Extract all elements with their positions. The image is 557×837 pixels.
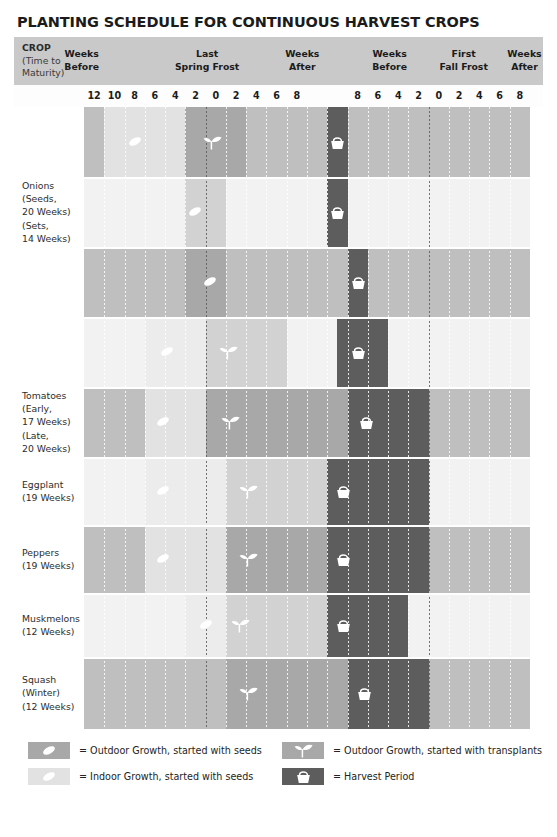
crop-row[interactable]: Squash(Winter)(12 Weeks)	[14, 657, 543, 729]
column-separator	[104, 593, 105, 657]
column-separator	[368, 177, 369, 247]
column-separator	[489, 317, 490, 387]
basket-icon	[356, 686, 373, 701]
crop-row[interactable]: Tomatoes(Early,17 Weeks)(Late,20 Weeks)	[14, 387, 543, 457]
column-separator	[185, 387, 186, 457]
column-separator	[125, 387, 126, 457]
column-separator	[287, 107, 288, 177]
column-separator	[307, 593, 308, 657]
column-separator	[104, 247, 105, 317]
frost-line	[429, 387, 430, 457]
column-separator	[408, 457, 409, 525]
column-separator	[104, 525, 105, 593]
column-separator	[165, 657, 166, 729]
column-separator	[327, 107, 328, 177]
crop-label-line: (19 Weeks)	[22, 491, 74, 504]
column-separator	[348, 107, 349, 177]
column-separator	[125, 317, 126, 387]
column-separator	[104, 457, 105, 525]
column-separator	[510, 387, 511, 457]
row-band-area	[14, 317, 543, 387]
column-separator	[287, 247, 288, 317]
axis-tick-0: 12	[86, 90, 102, 101]
column-separator	[489, 177, 490, 247]
sprout-icon	[218, 415, 242, 430]
row-band-area	[14, 525, 543, 593]
frost-line	[429, 177, 430, 247]
crop-row[interactable]	[14, 247, 543, 317]
column-separator	[287, 457, 288, 525]
legend-item: = Outdoor Growth, started with transplan…	[282, 742, 542, 759]
column-separator	[125, 247, 126, 317]
column-separator	[388, 247, 389, 317]
column-separator	[185, 177, 186, 247]
crop-label-line: 20 Weeks)	[22, 205, 71, 218]
crop-row[interactable]	[14, 317, 543, 387]
header-group-5: WeeksAfter	[472, 48, 557, 73]
column-separator	[125, 657, 126, 729]
column-separator	[510, 525, 511, 593]
column-separator	[125, 107, 126, 177]
sprout-icon	[200, 135, 224, 150]
column-separator	[469, 247, 470, 317]
crop-label-line: Tomatoes	[22, 389, 71, 402]
crop-label: Onions(Seeds,20 Weeks)(Sets,14 Weeks)	[22, 179, 71, 245]
header-group-line1: Weeks	[472, 48, 557, 61]
column-separator	[408, 657, 409, 729]
legend-label: = Harvest Period	[333, 771, 414, 782]
column-separator	[510, 593, 511, 657]
axis-tick-20: 6	[492, 90, 508, 101]
frost-line	[206, 177, 207, 247]
basket-icon	[329, 205, 346, 220]
frost-line	[429, 457, 430, 525]
crop-label-line: (Seeds,	[22, 192, 71, 205]
seed-icon	[187, 205, 203, 218]
column-separator	[165, 247, 166, 317]
planting-schedule-page: PLANTING SCHEDULE FOR CONTINUOUS HARVEST…	[0, 0, 557, 837]
frost-line	[429, 247, 430, 317]
band-indoor-seeds[interactable]	[145, 317, 206, 387]
basket-icon	[335, 484, 352, 499]
row-divider	[14, 387, 543, 389]
legend-item: = Harvest Period	[282, 768, 414, 785]
legend-swatch	[28, 768, 70, 785]
crop-row[interactable]: Peppers(19 Weeks)	[14, 525, 543, 593]
column-separator	[307, 387, 308, 457]
header-group-0: WeeksBefore	[30, 48, 134, 73]
frost-line	[206, 387, 207, 457]
column-separator	[388, 593, 389, 657]
column-separator	[165, 107, 166, 177]
column-separator	[408, 387, 409, 457]
column-separator	[510, 107, 511, 177]
column-separator	[408, 525, 409, 593]
axis-tick-6: 0	[208, 90, 224, 101]
seed-icon	[127, 135, 143, 148]
column-separator	[266, 593, 267, 657]
column-separator	[449, 317, 450, 387]
crop-row[interactable]: Muskmelons(12 Weeks)	[14, 593, 543, 657]
crop-label-line: 17 Weeks)	[22, 415, 71, 428]
sprout-icon	[236, 484, 260, 499]
column-separator	[408, 593, 409, 657]
row-divider	[14, 247, 543, 249]
column-separator	[185, 247, 186, 317]
axis-tick-8: 4	[248, 90, 264, 101]
band-indoor-seeds[interactable]	[145, 387, 206, 457]
column-separator	[408, 107, 409, 177]
frost-line	[206, 525, 207, 593]
header-group-line1: Last	[155, 48, 259, 61]
column-separator	[125, 593, 126, 657]
column-separator	[510, 247, 511, 317]
row-band-area	[14, 107, 543, 177]
row-band-area	[14, 177, 543, 247]
crop-row[interactable]	[14, 107, 543, 177]
column-separator	[246, 317, 247, 387]
crop-row[interactable]: Onions(Seeds,20 Weeks)(Sets,14 Weeks)	[14, 177, 543, 247]
crop-label: Tomatoes(Early,17 Weeks)(Late,20 Weeks)	[22, 389, 71, 455]
header-group-line1: Weeks	[30, 48, 134, 61]
row-divider	[14, 593, 543, 595]
crop-row[interactable]: Eggplant(19 Weeks)	[14, 457, 543, 525]
axis-tick-4: 4	[167, 90, 183, 101]
column-separator	[449, 107, 450, 177]
frost-line	[429, 525, 430, 593]
